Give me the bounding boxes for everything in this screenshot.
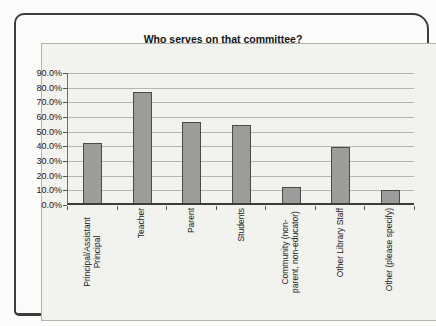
chart-title: Who serves on that committee? [67,33,379,45]
y-axis-tick-mark [63,117,67,118]
y-axis-tick-label: 0.0% [18,200,62,210]
x-axis-category-label: Community (non-parent, non-educator) [268,208,312,300]
x-axis-category-label: Principal/Assistant Principal [70,208,114,300]
gridline [68,88,414,89]
y-axis-tick-mark [63,176,67,177]
x-axis-tick-mark [117,206,118,210]
bar-5 [282,187,301,203]
y-axis-tick-label: 40.0% [18,141,62,151]
y-axis-tick-mark [63,161,67,162]
y-axis-tick-label: 60.0% [18,112,62,122]
x-axis-tick-mark [414,206,415,210]
plot-area [67,73,414,205]
x-axis-tick-mark [265,206,266,210]
y-axis-tick-mark [63,73,67,74]
x-axis-category-text: Other (please specify) [384,208,394,291]
x-axis-category-text: Principal/Assistant Principal [82,208,102,296]
y-axis-tick-label: 20.0% [18,171,62,181]
x-axis-category-label: Other (please specify) [367,208,411,300]
gridline [68,117,414,118]
gridline [68,102,414,103]
y-axis-tick-label: 30.0% [18,156,62,166]
y-axis-tick-label: 10.0% [18,185,62,195]
bar-2 [133,92,152,203]
bar-1 [83,143,102,203]
y-axis-tick-mark [63,102,67,103]
x-axis-category-label: Teacher [119,208,163,300]
y-axis-tick-mark [63,190,67,191]
x-axis-category-text: Teacher [136,208,146,238]
y-axis-tick-label: 70.0% [18,97,62,107]
x-axis-tick-mark [364,206,365,210]
x-axis-category-label: Students [219,208,263,300]
bar-3 [182,122,201,203]
y-axis-tick-label: 90.0% [18,68,62,78]
gridline [68,73,414,74]
scanned-chart-figure: Who serves on that committee? 90.0%80.0%… [0,0,436,326]
x-axis-tick-mark [166,206,167,210]
y-axis-tick-mark [63,132,67,133]
y-axis-tick-mark [63,146,67,147]
y-axis-tick-label: 80.0% [18,83,62,93]
x-axis-category-label: Other Library Staff [318,208,362,300]
x-axis-category-text: Community (non-parent, non-educator) [280,208,300,296]
y-axis-tick-mark [63,88,67,89]
y-axis-tick-label: 50.0% [18,127,62,137]
x-axis-tick-mark [315,206,316,210]
x-axis-category-text: Students [236,208,246,242]
x-axis-tick-mark [67,206,68,210]
x-axis-category-label: Parent [169,208,213,300]
bar-7 [381,190,400,203]
x-axis-category-text: Parent [186,208,196,233]
x-axis-category-text: Other Library Staff [335,208,345,277]
bar-6 [331,147,350,203]
bar-4 [232,125,251,203]
x-axis-tick-mark [216,206,217,210]
